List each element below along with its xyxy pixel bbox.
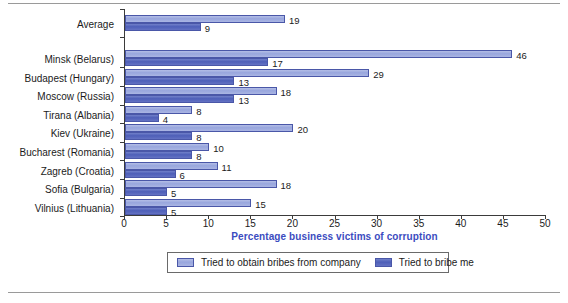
bar [125,58,268,66]
bar [125,95,234,103]
category-label: Moscow (Russia) [37,91,114,102]
bar-value-label: 46 [516,51,527,60]
bar [125,69,369,77]
bar-value-label: 8 [196,133,201,142]
bar [125,143,209,151]
y-axis-tick [120,142,124,143]
bar [125,180,277,188]
bar-value-label: 10 [213,144,224,153]
legend-label-dark: Tried to bribe me [399,257,474,268]
bar-value-label: 13 [238,96,249,105]
bar [125,23,201,31]
y-axis-tick [120,198,124,199]
bar [125,50,512,58]
bar-value-label: 18 [281,88,292,97]
bar-value-label: 5 [171,189,176,198]
bar-value-label: 5 [171,208,176,217]
legend-label-light: Tried to obtain bribes from company [201,257,361,268]
x-axis-tick-label: 20 [287,218,298,229]
bar-value-label: 6 [180,171,185,180]
y-axis-tick [120,9,124,10]
bar-value-label: 9 [205,24,210,33]
bar-value-label: 17 [272,59,283,68]
bottom-divider [8,292,560,293]
legend-entry-light: Tried to obtain bribes from company [177,257,361,268]
bar [125,15,285,23]
category-label: Vilnius (Lithuania) [35,203,114,214]
bar [125,77,234,85]
bar [125,114,159,122]
category-label: Zagreb (Croatia) [41,166,114,177]
category-label: Average [77,19,114,30]
bar [125,124,293,132]
x-axis-tick-label: 10 [203,218,214,229]
x-axis-tick-label: 0 [121,218,127,229]
bar-value-label: 15 [255,200,266,209]
category-label: Budapest (Hungary) [25,73,115,84]
bar [125,199,251,207]
x-axis-tick-label: 35 [413,218,424,229]
bar-value-label: 8 [196,152,201,161]
bar-value-label: 8 [196,107,201,116]
bar [125,188,167,196]
x-axis-tick-label: 15 [245,218,256,229]
category-label: Kiev (Ukraine) [51,128,114,139]
bar-value-label: 13 [238,78,249,87]
bar-value-label: 20 [297,125,308,134]
category-axis-labels: AverageMinsk (Belarus)Budapest (Hungary)… [0,9,120,215]
bar [125,162,218,170]
bar [125,87,277,95]
y-axis-tick [120,86,124,87]
bar [125,170,176,178]
y-axis-tick [120,105,124,106]
x-axis-tick-label: 30 [371,218,382,229]
y-axis-tick [120,160,124,161]
bar [125,106,192,114]
bar [125,207,167,215]
x-axis-tick-label: 40 [455,218,466,229]
chart-page: AverageMinsk (Belarus)Budapest (Hungary)… [0,0,568,303]
category-label: Tirana (Albania) [43,110,114,121]
bar [125,151,192,159]
x-axis-tick-label: 5 [163,218,169,229]
y-axis-tick [120,179,124,180]
legend-swatch-light-icon [177,258,194,267]
bar-value-label: 11 [222,163,232,172]
x-axis-tick-label: 25 [329,218,340,229]
legend-swatch-dark-icon [375,258,392,267]
category-label: Bucharest (Romania) [20,147,114,158]
chart-legend: Tried to obtain bribes from company Trie… [167,252,449,273]
bar-value-label: 29 [373,70,384,79]
legend-entry-dark: Tried to bribe me [375,257,474,268]
plot-area: 19946172913181384208108116185155 [124,9,545,215]
y-axis-tick [120,67,124,68]
bar-value-label: 19 [289,16,300,25]
top-divider [8,3,560,4]
x-axis-title: Percentage business victims of corruptio… [124,231,545,242]
x-axis-tick-labels: 05101520253035404550 [124,218,545,232]
category-label: Minsk (Belarus) [45,54,114,65]
bar-value-label: 18 [281,181,292,190]
bar [125,132,192,140]
y-axis-tick [120,37,124,38]
x-axis-tick-label: 45 [497,218,508,229]
y-axis-tick [120,123,124,124]
category-label: Sofia (Bulgaria) [45,184,114,195]
bar-value-label: 4 [163,115,168,124]
x-axis-tick-label: 50 [539,218,550,229]
